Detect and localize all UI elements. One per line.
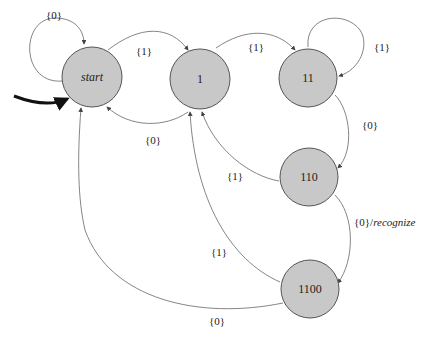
svg-text:1100: 1100 — [298, 282, 322, 296]
edge-1100-to-1 — [190, 112, 280, 282]
svg-text:start: start — [81, 70, 104, 84]
label-1-to-11: {1} — [248, 41, 264, 53]
initial-state-arrow — [14, 96, 67, 103]
label-start-self: {0} — [46, 9, 62, 21]
edge-1-to-start — [107, 107, 188, 123]
label-110-to-1100: {0}/recognize — [354, 216, 416, 228]
label-start-to-1: {1} — [136, 45, 152, 57]
label-1100-to-start: {0} — [209, 315, 225, 327]
state-start: start — [62, 47, 122, 107]
svg-text:11: 11 — [302, 71, 314, 85]
label-110-to-1: {1} — [227, 170, 243, 182]
label-11-self: {1} — [374, 41, 390, 53]
label-1100-to-1: {1} — [211, 246, 227, 258]
state-1100: 1100 — [281, 260, 339, 318]
label-11-to-110: {0} — [362, 119, 378, 131]
label-1-to-start: {0} — [145, 134, 161, 146]
state-110: 110 — [280, 148, 338, 206]
state-1: 1 — [170, 49, 230, 109]
edge-110-to-1100 — [335, 195, 350, 283]
svg-text:1: 1 — [197, 72, 203, 86]
state-11: 11 — [279, 49, 337, 107]
edge-1100-to-start — [79, 108, 283, 309]
svg-text:110: 110 — [300, 170, 318, 184]
edge-11-to-110 — [335, 95, 349, 168]
state-diagram: start 1 11 110 1100 {0} {1} {0} {1} {1} … — [0, 0, 429, 339]
